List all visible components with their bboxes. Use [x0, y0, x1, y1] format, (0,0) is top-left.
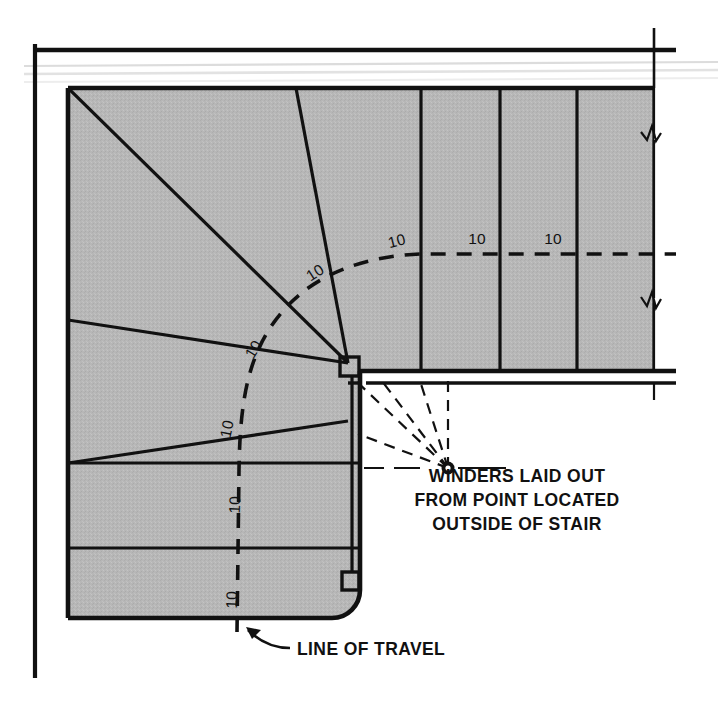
winders-note-block: WINDERS LAID OUT FROM POINT LOCATED OUTS… [414, 466, 619, 534]
dimension-label-d1: 10 [223, 591, 241, 609]
dimension-label-d3: 10 [216, 418, 236, 439]
ghost-construction-lines [24, 62, 718, 82]
line-of-travel-leader [246, 627, 290, 648]
dimension-label-d7: 10 [468, 230, 486, 247]
winders-note-line-2: FROM POINT LOCATED [414, 490, 619, 510]
line-of-travel-label: LINE OF TRAVEL [297, 639, 445, 659]
diagram-canvas: 1010101010101010 WINDERS LAID OUT FROM P… [0, 0, 718, 704]
construction-ray-2 [382, 381, 448, 468]
dimension-label-d8: 10 [544, 230, 562, 247]
stair-winder-diagram: 1010101010101010 WINDERS LAID OUT FROM P… [0, 0, 718, 704]
dimension-label-d2: 10 [226, 496, 244, 514]
winders-note-line-3: OUTSIDE OF STAIR [432, 514, 601, 534]
winders-note-line-1: WINDERS LAID OUT [429, 466, 606, 486]
layout-construction-lines [356, 381, 448, 468]
